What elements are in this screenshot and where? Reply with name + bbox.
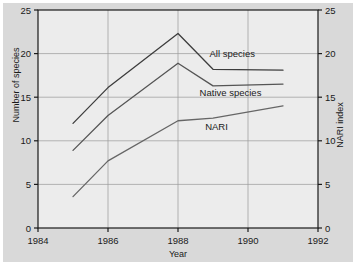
svg-text:5: 5 bbox=[26, 179, 31, 190]
svg-text:0: 0 bbox=[26, 223, 31, 234]
svg-text:Native species: Native species bbox=[200, 87, 262, 98]
svg-text:15: 15 bbox=[325, 92, 336, 103]
svg-text:20: 20 bbox=[325, 48, 336, 59]
chart-figure: 0510152025051015202519841986198819901992… bbox=[0, 0, 356, 265]
line-chart: 0510152025051015202519841986198819901992… bbox=[0, 0, 356, 265]
svg-text:25: 25 bbox=[325, 5, 336, 16]
svg-text:1986: 1986 bbox=[97, 235, 118, 246]
svg-text:All species: All species bbox=[210, 48, 256, 59]
svg-text:NARI: NARI bbox=[205, 121, 228, 132]
svg-text:1990: 1990 bbox=[237, 235, 258, 246]
svg-text:1992: 1992 bbox=[307, 235, 328, 246]
svg-text:1988: 1988 bbox=[167, 235, 188, 246]
svg-text:10: 10 bbox=[20, 135, 31, 146]
svg-text:25: 25 bbox=[20, 5, 31, 16]
svg-text:15: 15 bbox=[20, 92, 31, 103]
svg-text:0: 0 bbox=[325, 223, 330, 234]
y-axis-title-right: NARI index bbox=[335, 77, 345, 173]
svg-text:20: 20 bbox=[20, 48, 31, 59]
svg-text:10: 10 bbox=[325, 135, 336, 146]
x-axis-title: Year bbox=[140, 249, 216, 259]
svg-text:1984: 1984 bbox=[27, 235, 48, 246]
y-axis-title-left: Number of species bbox=[11, 37, 21, 133]
svg-text:5: 5 bbox=[325, 179, 330, 190]
